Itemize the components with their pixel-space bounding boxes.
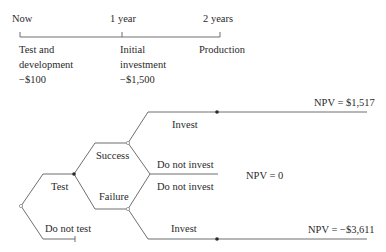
branch-success: Success	[96, 149, 129, 162]
stage-investment-line2: investment	[120, 58, 166, 71]
branch-test: Test	[51, 180, 68, 193]
outcome-failure-invest-npv: NPV = −$3,611	[308, 223, 374, 236]
branch-success-do-not-invest: Do not invest	[157, 158, 214, 171]
outcome-success-invest-npv: NPV = $1,517	[314, 96, 375, 109]
timeline-2-years: 2 years	[203, 12, 233, 25]
outcome-do-not-invest-npv: NPV = 0	[246, 169, 283, 182]
branch-failure: Failure	[99, 190, 129, 203]
branch-failure-invest: Invest	[171, 222, 197, 235]
stage-production: Production	[199, 43, 245, 56]
stage-test-cost: −$100	[19, 73, 46, 86]
branch-failure-do-not-invest: Do not invest	[157, 180, 214, 193]
stage-test-line1: Test and	[19, 43, 54, 56]
timeline-1-year: 1 year	[110, 12, 136, 25]
timeline-now: Now	[12, 12, 32, 25]
branch-do-not-test: Do not test	[45, 222, 91, 235]
stage-investment-line1: Initial	[120, 43, 145, 56]
stage-investment-cost: −$1,500	[120, 73, 155, 86]
branch-success-invest: Invest	[172, 118, 198, 131]
stage-test-line2: development	[19, 58, 73, 71]
